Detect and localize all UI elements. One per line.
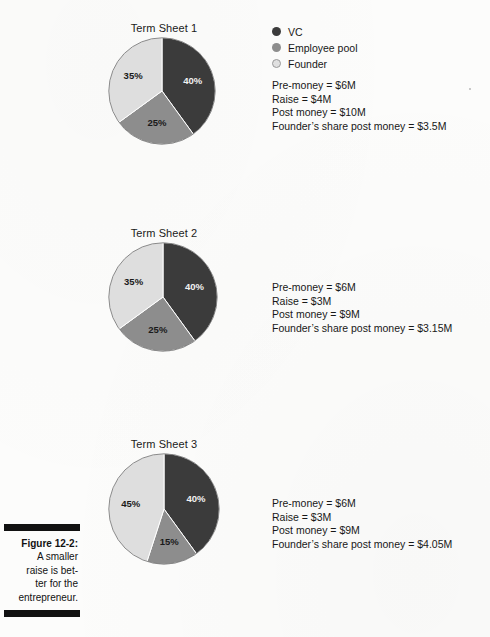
chart-title-3: Term Sheet 3 (108, 438, 220, 450)
legend-item-vc: VC (272, 24, 357, 39)
caption-text: Figure 12-2: A smaller raise is bet- ter… (4, 531, 80, 610)
legend-dot-icon (272, 27, 281, 36)
stat-pre-money: Pre-money = $6M (272, 79, 446, 93)
stat-raise: Raise = $4M (272, 93, 446, 107)
pie-slice-label: 40% (183, 75, 203, 86)
stat-post-money: Post money = $9M (272, 308, 452, 322)
pie-slice-label: 35% (124, 276, 144, 287)
pie-slice-label: 25% (147, 117, 167, 128)
caption-line: ter for the (4, 577, 78, 590)
stat-post-money: Post money = $10M (272, 106, 446, 120)
stat-post-money: Post money = $9M (272, 524, 452, 538)
stat-pre-money: Pre-money = $6M (272, 497, 452, 511)
scan-speck (469, 88, 471, 90)
pie-chart-2: 40%25%35% (108, 242, 216, 350)
chart-stats-2: Pre-money = $6M Raise = $3M Post money =… (272, 281, 452, 335)
stat-founder-share: Founder’s share post money = $4.05M (272, 538, 452, 552)
legend-item-employee-pool: Employee pool (272, 40, 357, 55)
chart-stats-3: Pre-money = $6M Raise = $3M Post money =… (272, 497, 452, 551)
pie-slice-label: 15% (160, 536, 180, 547)
legend-item-founder: Founder (272, 56, 357, 71)
caption-line: raise is bet- (4, 564, 78, 577)
stat-raise: Raise = $3M (272, 295, 452, 309)
chart-section-1: Term Sheet 1 40%25%35% VC Employee pool … (0, 0, 490, 213)
chart-section-2: Term Sheet 2 40%25%35% Pre-money = $6M R… (0, 213, 490, 425)
caption-rule-top (4, 524, 80, 531)
chart-title-1: Term Sheet 1 (108, 22, 220, 34)
pie-slice-label: 25% (148, 324, 168, 335)
legend-label: Founder (288, 58, 327, 70)
pie-chart-3: 40%15%45% (108, 453, 216, 561)
legend-dot-icon (272, 59, 281, 68)
stat-founder-share: Founder’s share post money = $3.15M (272, 322, 452, 336)
legend-dot-icon (272, 43, 281, 52)
caption-line: A smaller (4, 550, 78, 563)
chart-title-2: Term Sheet 2 (108, 227, 220, 239)
chart-legend: VC Employee pool Founder (272, 24, 357, 72)
pie-slice-label: 40% (186, 493, 206, 504)
pie-chart-1: 40%25%35% (108, 37, 216, 145)
caption-figure-number: Figure 12-2: (4, 537, 78, 550)
stat-founder-share: Founder’s share post money = $3.5M (272, 120, 446, 134)
chart-stats-1: Pre-money = $6M Raise = $4M Post money =… (272, 79, 446, 133)
figure-caption: Figure 12-2: A smaller raise is bet- ter… (4, 524, 80, 617)
legend-label: VC (288, 26, 303, 38)
pie-slice-label: 45% (121, 498, 141, 509)
legend-label: Employee pool (288, 42, 357, 54)
stat-pre-money: Pre-money = $6M (272, 281, 452, 295)
stat-raise: Raise = $3M (272, 511, 452, 525)
pie-slice-label: 35% (124, 70, 144, 81)
caption-line: entrepreneur. (4, 591, 78, 604)
caption-rule-bottom (4, 610, 80, 617)
pie-slice-label: 40% (185, 281, 205, 292)
